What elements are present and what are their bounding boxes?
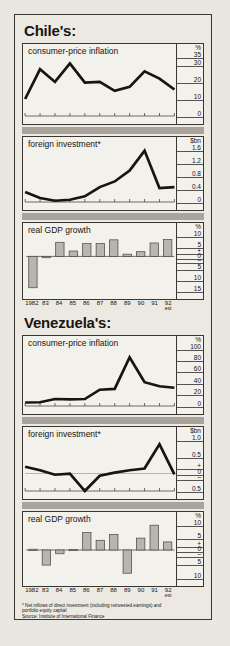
axis-tick-label: 0.4 (192, 183, 201, 190)
axis-tick-rule (177, 292, 203, 293)
axis-tick-rule (177, 203, 203, 204)
axis-tick-label: 10 (194, 93, 201, 100)
axis-tick-label: $bn (190, 427, 201, 434)
chart-page: Chile's: consumer-price inflation 35%302… (0, 0, 230, 646)
axis-tick-label: 0 (197, 110, 201, 117)
year-label: 92est (165, 300, 172, 311)
axis-tick-label: % (195, 44, 201, 51)
axis-tick-label: % (195, 512, 201, 519)
axis-tick-label: 100 (190, 343, 201, 350)
axis-tick-rule (177, 270, 203, 271)
panel-venezuela-foreign-investment: foreign investment* 1.0$bn0.5+0–0.5 (22, 426, 204, 500)
axis-tick-label: 0.8 (192, 170, 201, 177)
panel-title-chile-cpi: consumer-price inflation (28, 46, 118, 56)
axis-tick-rule (177, 83, 203, 84)
section-title-chile: Chile's: (24, 22, 204, 40)
year-label: 89 (124, 587, 131, 593)
axis-tick-rule (177, 151, 203, 152)
divider-band-4 (22, 502, 204, 509)
axis-chile-gdp: 10%5+0–51015 (176, 223, 203, 299)
panel-title-chile-gdp: real GDP growth (28, 225, 91, 235)
axis-tick-rule (177, 281, 203, 282)
axis-chile-fdi: 1.6$bn1.20.80.40 (176, 137, 203, 210)
axis-tick-rule (177, 164, 203, 165)
panel-chile-real-gdp-growth: real GDP growth 10%5+0–51015 (22, 222, 204, 300)
year-label: 84 (56, 300, 63, 306)
axis-tick-label: 35 (194, 51, 201, 58)
axis-tick-rule (177, 579, 203, 580)
axis-tick-rule (177, 492, 203, 493)
axis-tick-label: % (195, 223, 201, 230)
divider-band-1 (22, 127, 204, 134)
year-label: 83 (42, 587, 49, 593)
axis-tick-label: 0 (197, 400, 201, 407)
figure-frame: Chile's: consumer-price inflation 35%302… (14, 14, 212, 620)
axis-tick-rule (177, 565, 203, 566)
axis-tick-rule (177, 361, 203, 362)
axis-tick-rule (177, 395, 203, 396)
year-axis-chile: 198283848586878889909192est (22, 300, 204, 313)
axis-tick-label: – (197, 550, 201, 557)
axis-tick-label: 20 (194, 76, 201, 83)
year-label: 90 (138, 300, 145, 306)
divider-band-2 (22, 213, 204, 220)
axis-tick-label: 1.6 (192, 144, 201, 151)
year-label: 86 (83, 300, 90, 306)
axis-tick-rule (177, 237, 203, 238)
axis-tick-label: 5 (197, 263, 201, 270)
axis-tick-rule (177, 526, 203, 527)
axis-tick-label: 20 (194, 388, 201, 395)
axis-tick-rule (177, 441, 203, 442)
panel-title-chile-fdi: foreign investment* (28, 139, 101, 149)
axis-tick-label: 15 (194, 285, 201, 292)
year-label: 92est (165, 587, 172, 598)
year-label: 87 (97, 587, 104, 593)
axis-tick-rule (177, 190, 203, 191)
axis-ven-gdp: 10%5+0–510 (176, 512, 203, 586)
axis-tick-label: 10 (194, 572, 201, 579)
axis-tick-label: – (197, 473, 201, 480)
year-label: 83 (42, 300, 49, 306)
axis-tick-label: 80 (194, 354, 201, 361)
year-label: 84 (56, 587, 63, 593)
axis-ven-fdi: 1.0$bn0.5+0–0.5 (176, 427, 203, 499)
year-label: 91 (151, 587, 158, 593)
year-label: 89 (124, 300, 131, 306)
axis-tick-label: 40 (194, 377, 201, 384)
footnote: * Net inflows of direct investment (incl… (22, 603, 204, 619)
divider-band-3 (22, 417, 204, 424)
panel-title-ven-cpi: consumer-price inflation (28, 338, 118, 348)
axis-tick-rule (177, 350, 203, 351)
axis-tick-label: 10 (194, 230, 201, 237)
year-label: 1982 (25, 587, 38, 593)
axis-tick-rule (177, 480, 203, 481)
year-label: 1982 (25, 300, 38, 306)
footnote-source: Source: Institute of International Finan… (22, 614, 204, 619)
axis-tick-rule (177, 117, 203, 118)
axis-tick-label: 10 (194, 519, 201, 526)
axis-tick-label: 0 (197, 196, 201, 203)
panel-title-ven-gdp: real GDP growth (28, 514, 91, 524)
year-label: 87 (97, 300, 104, 306)
axis-ven-cpi: 100%806040200 (176, 336, 203, 414)
panel-title-ven-fdi: foreign investment* (28, 429, 101, 439)
axis-chile-cpi: 35%3020100 (176, 44, 203, 124)
axis-tick-label: 0.5 (192, 451, 201, 458)
panel-chile-consumer-price-inflation: consumer-price inflation 35%3020100 (22, 43, 204, 125)
year-label: 85 (69, 300, 76, 306)
year-axis-venezuela: 198283848586878889909192est (22, 587, 204, 600)
axis-tick-label: 0.5 (192, 485, 201, 492)
axis-tick-rule (177, 384, 203, 385)
axis-tick-label: 10 (194, 274, 201, 281)
year-label: 86 (83, 587, 90, 593)
panel-chile-foreign-investment: foreign investment* 1.6$bn1.20.80.40 (22, 136, 204, 211)
panel-venezuela-real-gdp-growth: real GDP growth 10%5+0–510 (22, 511, 204, 587)
axis-tick-label: % (195, 336, 201, 343)
year-label: 85 (69, 587, 76, 593)
axis-tick-rule (177, 177, 203, 178)
axis-tick-label: 30 (194, 59, 201, 66)
axis-tick-label: 5 (197, 532, 201, 539)
year-label: 90 (138, 587, 145, 593)
axis-tick-rule (177, 407, 203, 408)
axis-tick-rule (177, 458, 203, 459)
